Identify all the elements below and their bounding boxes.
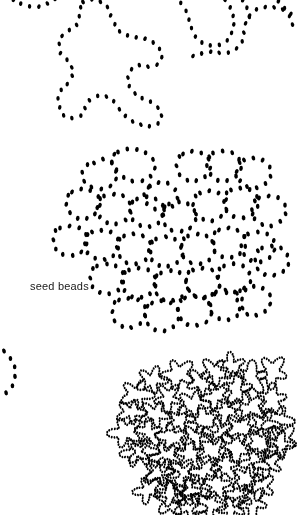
- figure-root: seed beads: [0, 0, 297, 515]
- beaded-contour-figure: [0, 0, 297, 515]
